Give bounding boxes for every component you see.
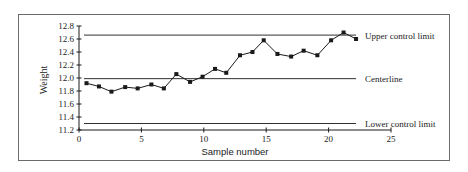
data-point-marker <box>174 72 178 76</box>
data-point-marker <box>329 38 333 42</box>
data-point-marker <box>97 84 101 88</box>
data-point-marker <box>302 49 306 53</box>
data-point-marker <box>149 83 153 87</box>
data-point-marker <box>136 86 140 90</box>
x-tick-label: 15 <box>262 134 272 144</box>
data-point-marker <box>224 71 228 75</box>
x-tick-label: 20 <box>324 134 334 144</box>
y-tick-label: 12.2 <box>58 60 74 70</box>
x-axis-label: Sample number <box>201 146 268 157</box>
data-point-marker <box>262 38 266 42</box>
data-point-marker <box>275 52 279 56</box>
control-chart: 11.211.411.611.812.012.212.412.612.80510… <box>0 0 468 172</box>
y-tick-label: 12.6 <box>58 34 74 44</box>
data-point-marker <box>315 53 319 57</box>
y-tick-label: 11.4 <box>59 112 75 122</box>
x-tick-label: 10 <box>199 134 209 144</box>
y-tick-label: 11.8 <box>59 86 75 96</box>
data-point-marker <box>342 31 346 35</box>
centerline-label: Centerline <box>365 74 403 84</box>
y-tick-label: 12.8 <box>58 21 74 31</box>
y-axis-label: Weight <box>38 65 49 94</box>
y-tick-label: 11.6 <box>59 99 75 109</box>
y-tick-label: 12.0 <box>58 73 74 83</box>
x-tick-label: 5 <box>139 134 144 144</box>
data-point-marker <box>109 90 113 94</box>
lower-control-limit-label: Lower control limit <box>365 119 436 129</box>
data-point-marker <box>201 75 205 79</box>
data-point-marker <box>354 37 358 41</box>
data-point-marker <box>84 81 88 85</box>
data-point-marker <box>188 80 192 84</box>
data-point-marker <box>238 53 242 57</box>
upper-control-limit-label: Upper control limit <box>365 31 435 41</box>
data-point-marker <box>162 86 166 90</box>
x-tick-label: 0 <box>77 134 82 144</box>
y-tick-label: 12.4 <box>58 47 74 57</box>
data-point-marker <box>289 55 293 59</box>
y-tick-label: 11.2 <box>59 125 74 135</box>
data-point-marker <box>250 50 254 54</box>
data-point-marker <box>123 85 127 89</box>
data-point-marker <box>213 67 217 71</box>
x-tick-label: 25 <box>387 134 397 144</box>
